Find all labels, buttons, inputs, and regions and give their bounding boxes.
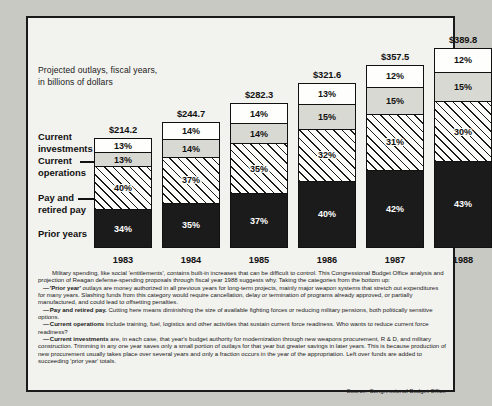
bar-segment-label: 37%: [250, 216, 268, 226]
bar-segment-label: 42%: [386, 204, 404, 214]
bar-segment-label: 35%: [250, 164, 268, 174]
bar-segment-operations-1983: 13%: [95, 153, 151, 167]
em-dash-5: —: [43, 336, 48, 342]
bar-column-1984: $244.714%14%37%35%1984: [162, 16, 220, 266]
bar-segment-pay-1984: 37%: [163, 158, 219, 204]
x-axis-label-1988: 1988: [434, 255, 492, 265]
bar-segment-operations-1984: 14%: [163, 140, 219, 157]
bar-segment-label: 40%: [318, 209, 336, 219]
bar-segment-pay-1986: 32%: [299, 130, 355, 182]
source-credit: Source: Congressional Budget Office: [38, 388, 446, 394]
bar-segment-prior-1983: 34%: [95, 210, 151, 247]
bar-segment-label: 15%: [318, 112, 336, 122]
bar-segment-label: 13%: [114, 141, 132, 151]
term-current-investments: Current investments: [50, 336, 109, 342]
body-paragraph-4: — Current operations include training, f…: [38, 321, 446, 336]
bar-1987: 12%15%31%42%: [366, 65, 424, 248]
bar-segment-label: 12%: [454, 55, 472, 65]
term-prior-year: 'Prior year': [50, 285, 81, 291]
article-body: Military spending, like social 'entitlem…: [38, 270, 446, 365]
bar-segment-prior-1985: 37%: [231, 194, 287, 247]
bar-segment-label: 40%: [114, 183, 132, 193]
bar-segment-prior-1987: 42%: [367, 171, 423, 247]
x-axis-label-1984: 1984: [162, 255, 220, 265]
bar-segment-label: 15%: [454, 82, 472, 92]
bar-column-1985: $282.314%14%35%37%1985: [230, 16, 288, 266]
bar-segment-label: 37%: [182, 175, 200, 185]
bar-segment-label: 14%: [182, 144, 200, 154]
bar-segment-label: 14%: [182, 126, 200, 136]
bar-segment-prior-1986: 40%: [299, 182, 355, 247]
bar-segment-operations-1986: 15%: [299, 105, 355, 129]
bar-segment-label: 34%: [114, 224, 132, 234]
bar-segment-label: 31%: [386, 137, 404, 147]
bar-1986: 13%15%32%40%: [298, 83, 356, 248]
bar-total-1988: $389.8: [434, 34, 492, 45]
term-current-operations: Current operations: [50, 321, 104, 327]
bar-segment-label: 43%: [454, 199, 472, 209]
bar-segment-label: 15%: [386, 96, 404, 106]
bar-total-1985: $282.3: [230, 89, 288, 100]
x-axis-label-1987: 1987: [366, 255, 424, 265]
bar-total-1984: $244.7: [162, 108, 220, 119]
em-dash-4: —: [43, 321, 48, 327]
bar-segment-label: 14%: [250, 109, 268, 119]
bar-segment-investments-1985: 14%: [231, 104, 287, 124]
bar-segment-operations-1987: 15%: [367, 88, 423, 115]
bar-segment-label: 13%: [114, 155, 132, 165]
x-axis-label-1986: 1986: [298, 255, 356, 265]
x-axis-label-1985: 1985: [230, 255, 288, 265]
bar-total-1986: $321.6: [298, 69, 356, 80]
bar-1983: 13%13%40%34%: [94, 138, 152, 248]
body-paragraph-2-rest: outlays are money authorized in all prev…: [38, 285, 438, 306]
bar-segment-prior-1984: 35%: [163, 204, 219, 247]
bar-column-1988: $389.812%15%30%43%1988: [434, 16, 492, 266]
body-paragraph-2: — 'Prior year' outlays are money authori…: [38, 285, 446, 307]
bar-segment-operations-1985: 14%: [231, 124, 287, 144]
bar-column-1986: $321.613%15%32%40%1986: [298, 16, 356, 266]
bar-segment-operations-1988: 15%: [435, 73, 491, 103]
bar-segment-label: 35%: [182, 220, 200, 230]
em-dash-2: —: [43, 285, 48, 291]
bar-segment-investments-1983: 13%: [95, 139, 151, 153]
bar-segment-label: 30%: [454, 127, 472, 137]
bar-segment-pay-1988: 30%: [435, 102, 491, 161]
bar-segment-investments-1987: 12%: [367, 66, 423, 88]
body-paragraph-5: — Current investments are, in each case,…: [38, 336, 446, 365]
em-dash-3: —: [43, 307, 48, 313]
bar-1985: 14%14%35%37%: [230, 103, 288, 248]
bar-segment-prior-1988: 43%: [435, 162, 491, 247]
bar-segment-label: 14%: [250, 129, 268, 139]
bar-segment-label: 12%: [386, 71, 404, 81]
bar-column-1983: $214.213%13%40%34%1983: [94, 16, 152, 266]
bar-total-1987: $357.5: [366, 51, 424, 62]
bar-segment-pay-1987: 31%: [367, 115, 423, 171]
bar-segment-investments-1986: 13%: [299, 84, 355, 105]
bar-segment-pay-1983: 40%: [95, 167, 151, 210]
bar-segment-label: 13%: [318, 89, 336, 99]
bar-segment-investments-1984: 14%: [163, 123, 219, 140]
x-axis-label-1983: 1983: [94, 255, 152, 265]
body-paragraph-1: Military spending, like social 'entitlem…: [38, 270, 446, 285]
bar-segment-label: 32%: [318, 150, 336, 160]
bar-segment-pay-1985: 35%: [231, 144, 287, 194]
bar-column-1987: $357.512%15%31%42%1987: [366, 16, 424, 266]
bar-1984: 14%14%37%35%: [162, 122, 220, 248]
term-pay-and-retired-pay: Pay and retired pay.: [50, 307, 107, 313]
stacked-bar-chart: $214.213%13%40%34%1983$244.714%14%37%35%…: [26, 16, 455, 266]
bar-1988: 12%15%30%43%: [434, 48, 492, 248]
bar-segment-investments-1988: 12%: [435, 49, 491, 73]
bar-total-1983: $214.2: [94, 124, 152, 135]
body-paragraph-3: — Pay and retired pay. Cutting here mean…: [38, 307, 446, 322]
